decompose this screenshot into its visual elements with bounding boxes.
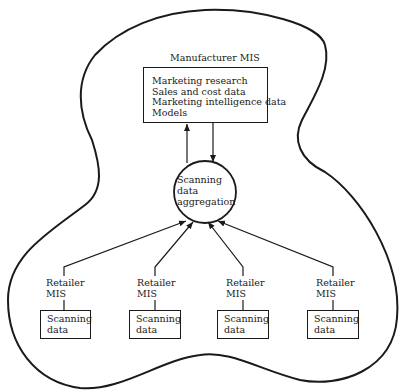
- retailer-mis-label: Retailer MIS: [46, 277, 85, 299]
- box-line1: Scanning: [314, 314, 358, 325]
- scanning-data-box: Scanning data: [129, 310, 181, 339]
- retailer-label-line2: MIS: [226, 288, 265, 299]
- box-line2: data: [314, 325, 358, 336]
- retailer-mis-label: Retailer MIS: [226, 277, 265, 299]
- retailer-label-line2: MIS: [137, 288, 176, 299]
- retailer-mis-label: Retailer MIS: [316, 277, 355, 299]
- box-line1: Scanning: [224, 314, 268, 325]
- manufacturer-item: Marketing intelligence data: [152, 97, 267, 108]
- arrow-retailer-3: [208, 222, 243, 276]
- retailer-label-line1: Retailer: [316, 277, 355, 288]
- retailer-label-line2: MIS: [46, 288, 85, 299]
- scanning-data-box: Scanning data: [217, 310, 269, 339]
- arrow-retailer-1: [64, 221, 186, 276]
- manufacturer-item: Models: [152, 108, 267, 119]
- retailer-label-line1: Retailer: [226, 277, 265, 288]
- scanning-data-box: Scanning data: [307, 310, 359, 339]
- aggregation-line: aggregation: [177, 196, 235, 207]
- retailer-label-line1: Retailer: [46, 277, 85, 288]
- aggregation-label: Scanning data aggregation: [177, 174, 235, 207]
- manufacturer-title: Manufacturer MIS: [170, 52, 260, 63]
- retailer-label-line2: MIS: [316, 288, 355, 299]
- diagram-canvas: Manufacturer MIS Marketing research Sale…: [0, 0, 407, 392]
- arrow-retailer-4: [218, 221, 333, 276]
- box-line2: data: [47, 325, 90, 336]
- retailer-label-line1: Retailer: [137, 277, 176, 288]
- manufacturer-box: Marketing research Sales and cost data M…: [143, 67, 268, 123]
- box-line1: Scanning: [136, 314, 180, 325]
- scanning-data-box: Scanning data: [40, 310, 91, 339]
- aggregation-line: data: [177, 185, 235, 196]
- aggregation-line: Scanning: [177, 174, 235, 185]
- manufacturer-item: Marketing research: [152, 76, 267, 87]
- retailer-mis-label: Retailer MIS: [137, 277, 176, 299]
- box-line2: data: [136, 325, 180, 336]
- box-line2: data: [224, 325, 268, 336]
- box-line1: Scanning: [47, 314, 90, 325]
